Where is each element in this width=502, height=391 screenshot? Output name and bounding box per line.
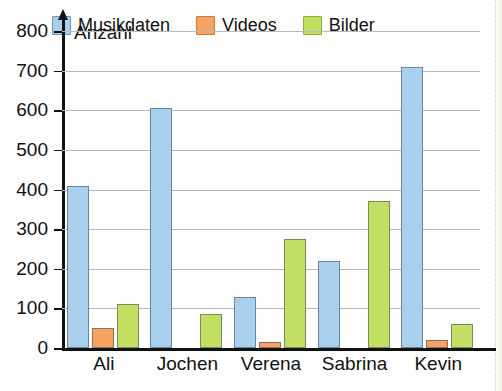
bar-kevin-videos	[426, 340, 448, 348]
bar-group-ali	[62, 31, 146, 348]
y-axis-tick-label: 300	[0, 218, 48, 240]
bar-group-verena	[229, 31, 313, 348]
y-axis-tick	[54, 71, 62, 73]
page-edge-decoration	[495, 0, 502, 391]
bar-group-jochen	[146, 31, 230, 348]
y-axis-tick	[54, 308, 62, 310]
plot-area: 0100200300400500600700800AliJochenVerena…	[62, 31, 480, 348]
y-axis-tick-label: 600	[0, 99, 48, 121]
bar-group-kevin	[396, 31, 480, 348]
y-axis-tick-label: 400	[0, 179, 48, 201]
bar-kevin-musikdaten	[401, 67, 423, 348]
bar-ali-musikdaten	[67, 186, 89, 348]
y-axis-tick-label: 0	[0, 337, 48, 359]
bar-jochen-bilder	[200, 314, 222, 348]
y-axis-tick-label: 500	[0, 139, 48, 161]
y-axis-tick	[54, 348, 62, 350]
y-axis-tick-label: 700	[0, 60, 48, 82]
bar-sabrina-musikdaten	[318, 261, 340, 348]
bar-kevin-bilder	[451, 324, 473, 348]
x-axis-category-label: Kevin	[396, 353, 480, 375]
y-axis-tick-label: 100	[0, 297, 48, 319]
y-axis-arrow-icon	[58, 9, 68, 20]
bar-ali-videos	[92, 328, 114, 348]
y-axis-tick	[54, 190, 62, 192]
bar-verena-musikdaten	[234, 297, 256, 349]
y-axis-tick	[54, 229, 62, 231]
bar-ali-bilder	[117, 304, 139, 348]
bar-sabrina-bilder	[368, 201, 390, 348]
y-axis-tick-label: 800	[0, 20, 48, 42]
bar-jochen-musikdaten	[150, 108, 172, 348]
bar-verena-videos	[259, 342, 281, 348]
bar-verena-bilder	[284, 239, 306, 348]
y-axis-tick-label: 200	[0, 258, 48, 280]
y-axis-tick	[54, 31, 62, 33]
chart-figure: Anzahl MusikdatenVideosBilder 0100200300…	[0, 0, 502, 391]
y-axis-tick	[54, 150, 62, 152]
x-axis-category-label: Jochen	[146, 353, 230, 375]
x-axis-category-label: Ali	[62, 353, 146, 375]
x-axis-line	[62, 348, 496, 351]
y-axis-tick	[54, 110, 62, 112]
bar-group-sabrina	[313, 31, 397, 348]
x-axis-category-label: Verena	[229, 353, 313, 375]
y-axis-tick	[54, 269, 62, 271]
cropped-title	[0, 0, 502, 6]
x-axis-category-label: Sabrina	[313, 353, 397, 375]
